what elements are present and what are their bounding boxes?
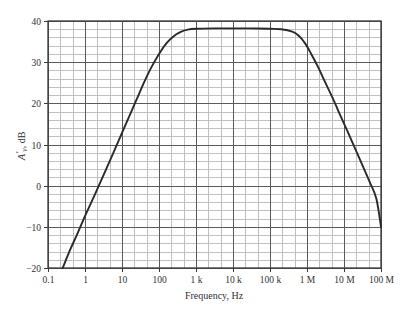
y-tick-label: −20: [26, 264, 41, 274]
x-tick-label: 1 k: [191, 275, 203, 285]
svg-text:A′v, dB: A′v, dB: [14, 131, 29, 161]
y-tick-label: −10: [26, 223, 41, 233]
frequency-response-figure: −20−10010203040 0.11101001 k10 k100 k1 M…: [0, 0, 410, 312]
y-tick-label: 30: [32, 58, 42, 68]
y-tick-label: 20: [32, 99, 42, 109]
x-tick-label: 100: [152, 275, 167, 285]
x-tick-label: 0.1: [43, 275, 55, 285]
x-tick-label: 10: [118, 275, 128, 285]
x-axis-title: Frequency, Hz: [185, 290, 244, 301]
x-tick-label: 1: [83, 275, 88, 285]
x-tick-label: 1 M: [300, 275, 316, 285]
x-tick-label: 100 k: [260, 275, 282, 285]
y-tick-label: 40: [32, 17, 42, 27]
x-tick-label: 10 M: [334, 275, 355, 285]
y-tick-label: 10: [32, 141, 42, 151]
frequency-response-chart: −20−10010203040 0.11101001 k10 k100 k1 M…: [0, 0, 410, 312]
x-tick-label: 100 M: [369, 275, 395, 285]
y-axis-title: A′v, dB: [14, 131, 29, 161]
y-axis-units: , dB: [16, 131, 27, 148]
x-tick-label: 10 k: [225, 275, 242, 285]
y-tick-label: 0: [36, 182, 41, 192]
